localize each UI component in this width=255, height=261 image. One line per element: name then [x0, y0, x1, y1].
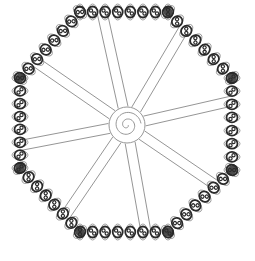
coil-bead	[138, 224, 148, 240]
spoke-line	[97, 13, 118, 108]
coil-bead	[113, 4, 123, 20]
spoke-line	[107, 11, 128, 106]
wheel-illustration	[0, 0, 255, 261]
spoke-line	[21, 133, 110, 150]
spoke-line	[19, 123, 108, 140]
coil-bead	[113, 224, 123, 240]
coil-bead	[88, 224, 98, 240]
coil-bead	[125, 224, 135, 240]
coil-bead	[12, 163, 28, 173]
spoke-line	[140, 31, 188, 112]
coil-bead	[224, 99, 240, 109]
spoke-line	[125, 144, 141, 233]
coil-bead	[224, 73, 240, 83]
spoke-line	[135, 142, 151, 231]
coil-bead	[88, 4, 98, 20]
coil-bead	[150, 224, 160, 240]
coil-bead	[100, 224, 110, 240]
wheel-drawing: Wire-wrapped octagonal wheel	[0, 0, 255, 261]
coil-bead	[12, 99, 28, 109]
spoke-line	[146, 106, 233, 126]
coil-bead	[224, 152, 240, 162]
spoke-line	[132, 26, 180, 107]
coil-bead	[12, 150, 28, 160]
coil-bead	[12, 86, 28, 96]
spoke-line	[38, 57, 115, 110]
coil-bead	[12, 124, 28, 134]
spiral-hub-icon	[109, 107, 145, 143]
spoke-line	[145, 131, 219, 181]
coil-bead	[138, 4, 148, 20]
coil-bead	[125, 4, 135, 20]
coil-bead	[224, 126, 240, 136]
spoke-line	[69, 143, 121, 219]
coil-bead	[100, 4, 110, 20]
coil-bead	[224, 112, 240, 122]
spoke-line	[61, 137, 113, 213]
spoke-line	[32, 66, 109, 119]
coil-bead	[12, 137, 28, 147]
coil-bead	[163, 224, 173, 240]
coil-bead	[12, 112, 28, 122]
coil-bead	[224, 86, 240, 96]
coil-bead	[150, 4, 160, 20]
coil-bead	[224, 139, 240, 149]
spoke-line	[139, 139, 213, 189]
spoke-line	[143, 96, 230, 116]
